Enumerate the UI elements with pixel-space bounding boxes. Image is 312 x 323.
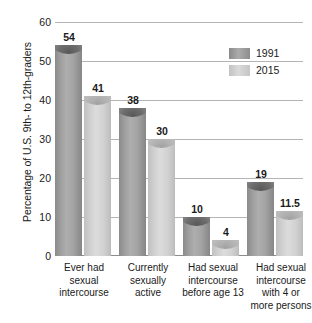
y-tick-30: 30 bbox=[25, 134, 51, 145]
bar-body bbox=[55, 45, 82, 256]
y-axis-tick-labels: 60 50 40 30 20 10 0 bbox=[25, 22, 51, 256]
bar-value-1991-sexual-intercourse-before-age-13: 10 bbox=[175, 203, 219, 215]
bar-group-currently-sexually-active: 38 30 bbox=[119, 22, 177, 256]
legend-label-1991: 1991 bbox=[256, 47, 279, 60]
y-tick-50: 50 bbox=[25, 56, 51, 67]
category-label-currently-sexually-active: Currently sexually active bbox=[117, 262, 179, 300]
bar-2015-currently-sexually-active[interactable] bbox=[148, 139, 175, 256]
bar-value-1991-sexual-intercourse-with-4-or-more-persons: 19 bbox=[239, 168, 283, 180]
category-line: sexually bbox=[117, 275, 179, 288]
bar-value-2015-sexual-intercourse-with-4-or-more-persons: 11.5 bbox=[268, 197, 312, 209]
legend-swatch-1991-icon bbox=[229, 48, 250, 59]
y-tick-60: 60 bbox=[25, 17, 51, 28]
y-tick-20: 20 bbox=[25, 173, 51, 184]
bar-body bbox=[148, 139, 175, 256]
y-tick-10: 10 bbox=[25, 212, 51, 223]
bar-group-ever-had-sexual-intercourse: 54 41 bbox=[55, 22, 113, 256]
category-line: more persons bbox=[245, 300, 312, 313]
category-line: Had sexual bbox=[177, 262, 249, 275]
category-line: intercourse bbox=[177, 275, 249, 288]
category-line: intercourse bbox=[245, 275, 312, 288]
y-tick-0: 0 bbox=[25, 251, 51, 262]
bar-1991-sexual-intercourse-with-4-or-more-persons[interactable] bbox=[247, 182, 274, 256]
bar-2015-ever-had-sexual-intercourse[interactable] bbox=[84, 96, 111, 256]
bar-1991-ever-had-sexual-intercourse[interactable] bbox=[55, 45, 82, 256]
bar-body bbox=[247, 182, 274, 256]
category-line: Had sexual bbox=[245, 262, 312, 275]
bar-value-1991-ever-had-sexual-intercourse: 54 bbox=[47, 31, 91, 43]
legend-item-2015[interactable]: 2015 bbox=[229, 64, 305, 77]
bar-chart: Percentage of U.S. 9th- to 12th-graders … bbox=[0, 0, 312, 323]
bar-2015-sexual-intercourse-before-age-13[interactable] bbox=[212, 240, 239, 256]
x-axis-category-labels: Ever had sexual intercourse Currently se… bbox=[55, 262, 307, 322]
category-line: active bbox=[117, 287, 179, 300]
category-line: Currently bbox=[117, 262, 179, 275]
category-line: Ever had bbox=[51, 262, 117, 275]
category-line: before age 13 bbox=[177, 287, 249, 300]
bar-value-1991-currently-sexually-active: 38 bbox=[111, 94, 155, 106]
bar-value-2015-currently-sexually-active: 30 bbox=[140, 125, 184, 137]
category-line: with 4 or bbox=[245, 287, 312, 300]
category-label-sexual-intercourse-before-age-13: Had sexual intercourse before age 13 bbox=[177, 262, 249, 300]
bar-value-2015-ever-had-sexual-intercourse: 41 bbox=[76, 82, 120, 94]
category-line: sexual bbox=[51, 275, 117, 288]
bar-body bbox=[84, 96, 111, 256]
legend-item-1991[interactable]: 1991 bbox=[229, 47, 305, 60]
bar-2015-sexual-intercourse-with-4-or-more-persons[interactable] bbox=[276, 211, 303, 256]
chart-legend: 1991 2015 bbox=[229, 47, 305, 81]
bar-value-2015-sexual-intercourse-before-age-13: 4 bbox=[204, 226, 248, 238]
category-label-sexual-intercourse-with-4-or-more-persons: Had sexual intercourse with 4 or more pe… bbox=[245, 262, 312, 312]
legend-label-2015: 2015 bbox=[256, 64, 279, 77]
category-label-ever-had-sexual-intercourse: Ever had sexual intercourse bbox=[51, 262, 117, 300]
legend-swatch-2015-icon bbox=[229, 65, 250, 76]
y-tick-40: 40 bbox=[25, 95, 51, 106]
category-line: intercourse bbox=[51, 287, 117, 300]
